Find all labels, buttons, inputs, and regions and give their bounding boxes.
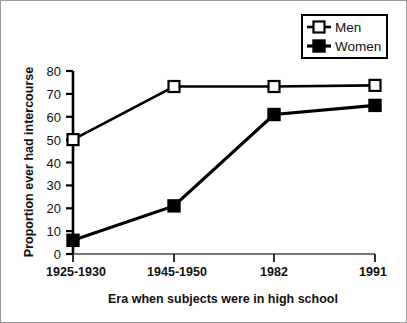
series-women-line [73,105,375,240]
data-point-men [68,134,79,145]
legend-item-men[interactable]: Men [307,20,361,35]
x-tick-label: 1925-1930 [46,265,106,279]
y-tick-label: 10 [47,224,61,239]
y-axis-tick-labels: 80 70 60 50 40 30 20 10 0 [47,64,61,262]
legend-item-women[interactable]: Women [307,39,381,54]
y-tick-label: 30 [47,178,61,193]
series-men-line [73,85,375,139]
data-point-men [269,81,280,92]
legend-marker-women [313,40,325,52]
x-axis-tick-labels: 1925-1930 1945-1950 1982 1991 [46,265,387,279]
y-tick-label: 80 [47,64,61,79]
y-tick-label: 50 [47,133,61,148]
x-tick-label: 1945-1950 [147,265,207,279]
x-axis-title: Era when subjects were in high school [108,292,338,306]
y-axis-title: Proportion ever had intercourse [22,67,36,257]
x-axis-ticks [73,254,375,262]
data-point-women [369,99,381,111]
data-point-women [168,200,180,212]
y-tick-label: 70 [47,87,61,102]
y-tick-label: 40 [47,156,61,171]
data-point-men [370,80,381,91]
series-women [67,99,381,246]
data-point-men [169,81,180,92]
x-tick-label: 1991 [359,265,387,279]
data-point-women [268,109,280,121]
line-chart: 80 70 60 50 40 30 20 10 0 1925-1930 1945… [1,1,407,323]
y-tick-label: 20 [47,201,61,216]
chart-legend: Men Women [302,15,387,58]
chart-figure: 80 70 60 50 40 30 20 10 0 1925-1930 1945… [0,0,407,323]
series-men [68,80,381,145]
y-tick-label: 60 [47,110,61,125]
data-point-women [67,234,79,246]
x-tick-label: 1982 [260,265,288,279]
legend-marker-men [314,22,325,33]
y-tick-label: 0 [54,247,61,262]
legend-label-men: Men [335,20,361,35]
legend-label-women: Women [335,39,381,54]
